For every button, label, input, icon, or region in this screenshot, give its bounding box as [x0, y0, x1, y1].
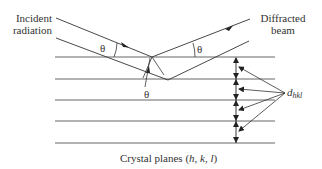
diffracted-label-line1: Diffracted	[252, 12, 314, 24]
diffracted-label-line2: beam	[252, 24, 314, 36]
incident-label-line2: radiation	[0, 24, 52, 36]
d-hkl-label: dhkl	[287, 86, 302, 102]
bragg-diagram: Incident radiation Diffracted beam θ θ θ…	[0, 0, 322, 169]
theta-arc-incident	[114, 43, 117, 57]
crystal-planes	[55, 57, 275, 143]
crystal-planes-caption: Crystal planes (h, k, l)	[120, 152, 217, 164]
incident-arrow-icon	[121, 42, 129, 48]
incident-rays	[56, 18, 168, 80]
incident-label-line1: Incident	[0, 12, 52, 24]
incident-label: Incident radiation	[0, 12, 52, 36]
theta-label-diffracted: θ	[197, 43, 202, 55]
diffracted-label: Diffracted beam	[252, 12, 314, 36]
perpendicular-diffracted	[152, 57, 164, 75]
d-hkl-subscript: hkl	[293, 91, 303, 100]
theta-label-incident: θ	[100, 42, 105, 54]
theta-label-bottom: θ	[144, 88, 149, 100]
theta-arc-diffracted	[193, 43, 195, 57]
